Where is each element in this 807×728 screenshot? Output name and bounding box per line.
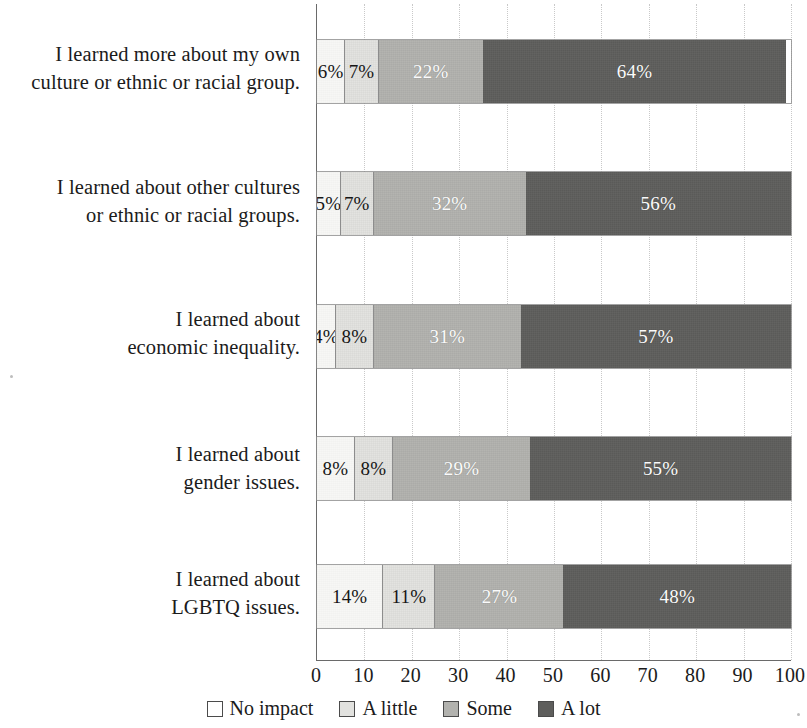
category-label-line: gender issues. [0,468,300,496]
legend-item[interactable]: Some [443,697,512,720]
legend-item[interactable]: A lot [538,697,600,720]
bar-segment-value: 31% [430,326,465,348]
scan-speck [797,713,800,716]
bar-segment: 7% [345,40,378,103]
bar-row: 8%8%29%55% [317,437,791,500]
bar-segment-value: 8% [323,458,349,480]
bar-segment-value: 14% [332,586,367,608]
category-label-line: culture or ethnic or racial group. [0,68,300,96]
bar-segment: 11% [383,565,435,628]
category-label: I learned aboutLGBTQ issues. [0,565,300,622]
legend-item[interactable]: A little [339,697,417,720]
bar-segment-value: 7% [349,61,375,83]
bar-segment: 32% [374,172,526,235]
bar-segment-value: 29% [444,458,479,480]
legend-label: A lot [561,697,600,720]
x-axis-tick-label: 100 [760,664,807,687]
legend-swatch-icon [538,701,554,717]
bar-row: 6%7%22%64% [317,40,791,103]
category-label: I learned more about my ownculture or et… [0,40,300,97]
bar-segment-value: 56% [641,193,676,215]
bar-segment: 5% [317,172,341,235]
legend-swatch-icon [207,701,223,717]
bar-segment: 8% [336,305,374,368]
category-label-line: I learned about [0,440,300,468]
bar-row: 4%8%31%57% [317,305,791,368]
gridline [791,4,792,660]
bar-segment: 27% [435,565,563,628]
bar-segment-value: 27% [482,586,517,608]
legend-item[interactable]: No impact [207,697,314,720]
bar-segment: 56% [526,172,791,235]
plot-area: 6%7%22%64%5%7%32%56%4%8%31%57%8%8%29%55%… [316,4,791,661]
bar-segment-value: 8% [360,458,386,480]
category-label-line: I learned about other cultures [0,173,300,201]
bar-segment-value: 32% [432,193,467,215]
category-label-line: I learned about [0,305,300,333]
bar-row: 14%11%27%48% [317,565,791,628]
bar-row: 5%7%32%56% [317,172,791,235]
bar-segment-value: 11% [392,586,427,608]
bar-segment: 6% [317,40,345,103]
bar-segment-value: 64% [617,61,652,83]
legend-label: No impact [230,697,314,720]
bar-segment: 29% [393,437,530,500]
bar-segment-value: 5% [317,193,341,215]
category-label-line: LGBTQ issues. [0,593,300,621]
chart-legend: No impactA littleSomeA lot [0,697,807,720]
legend-label: A little [362,697,417,720]
category-label-line: I learned more about my own [0,40,300,68]
bar-segment-value: 57% [638,326,673,348]
legend-swatch-icon [443,701,459,717]
bar-segment: 57% [521,305,791,368]
category-label: I learned aboutgender issues. [0,440,300,497]
category-label: I learned abouteconomic inequality. [0,305,300,362]
bar-segment: 8% [355,437,393,500]
bar-segment-value: 48% [659,586,694,608]
legend-swatch-icon [339,701,355,717]
category-label-line: or ethnic or racial groups. [0,201,300,229]
category-label-line: economic inequality. [0,333,300,361]
bar-segment: 31% [374,305,521,368]
bar-segment: 7% [341,172,374,235]
bar-segment-value: 55% [643,458,678,480]
category-label: I learned about other culturesor ethnic … [0,173,300,230]
bar-segment-value: 4% [317,326,336,348]
category-label-line: I learned about [0,565,300,593]
bar-segment: 64% [483,40,786,103]
bar-segment: 4% [317,305,336,368]
bar-segment-value: 6% [318,61,344,83]
bar-segment: 48% [563,565,791,628]
bar-segment-value: 22% [413,61,448,83]
stacked-bar-chart: I learned more about my ownculture or et… [0,0,807,728]
scan-speck [10,375,13,378]
bar-segment: 55% [530,437,791,500]
legend-label: Some [466,697,512,720]
bar-segment-value: 8% [342,326,368,348]
bar-segment: 22% [379,40,483,103]
bar-segment-value: 7% [344,193,370,215]
bar-segment: 14% [317,565,383,628]
bar-segment: 8% [317,437,355,500]
